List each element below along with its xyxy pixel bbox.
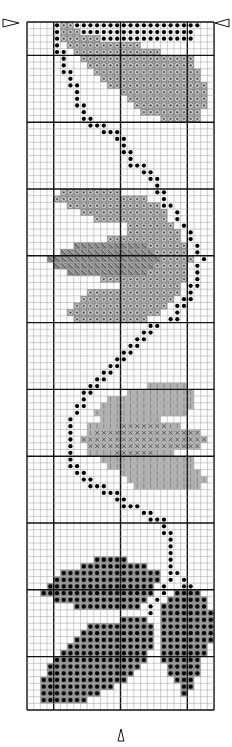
center-marker-bottom-icon [118, 729, 124, 741]
center-marker-right-icon [215, 19, 229, 27]
center-marker-left-icon [3, 19, 19, 27]
cross-stitch-chart [0, 0, 232, 747]
